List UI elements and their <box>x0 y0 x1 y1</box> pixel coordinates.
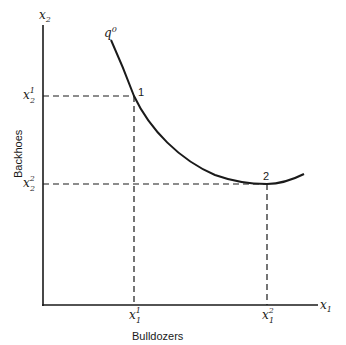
x-tick-point-1: x11 <box>129 306 141 325</box>
x-tick-point-2: x21 <box>262 306 274 325</box>
point-2-label: 2 <box>263 170 269 182</box>
point-1-label: 1 <box>138 86 144 98</box>
curve-label: q0 <box>104 25 117 40</box>
x-axis-symbol: x1 <box>320 298 332 314</box>
y-axis-symbol: x2 <box>39 8 51 24</box>
y-tick-point-1: x12 <box>23 86 35 105</box>
y-axis-label: Backhoes <box>12 129 24 178</box>
y-tick-point-2: x22 <box>23 174 35 193</box>
isoquant-curve <box>111 40 304 184</box>
guide-lines <box>43 96 267 305</box>
x-axis-label: Bulldozers <box>132 330 184 342</box>
isoquant-diagram: q0 1 2 x2 x1 x12 x22 x11 x21 Bulldozers … <box>0 0 346 345</box>
